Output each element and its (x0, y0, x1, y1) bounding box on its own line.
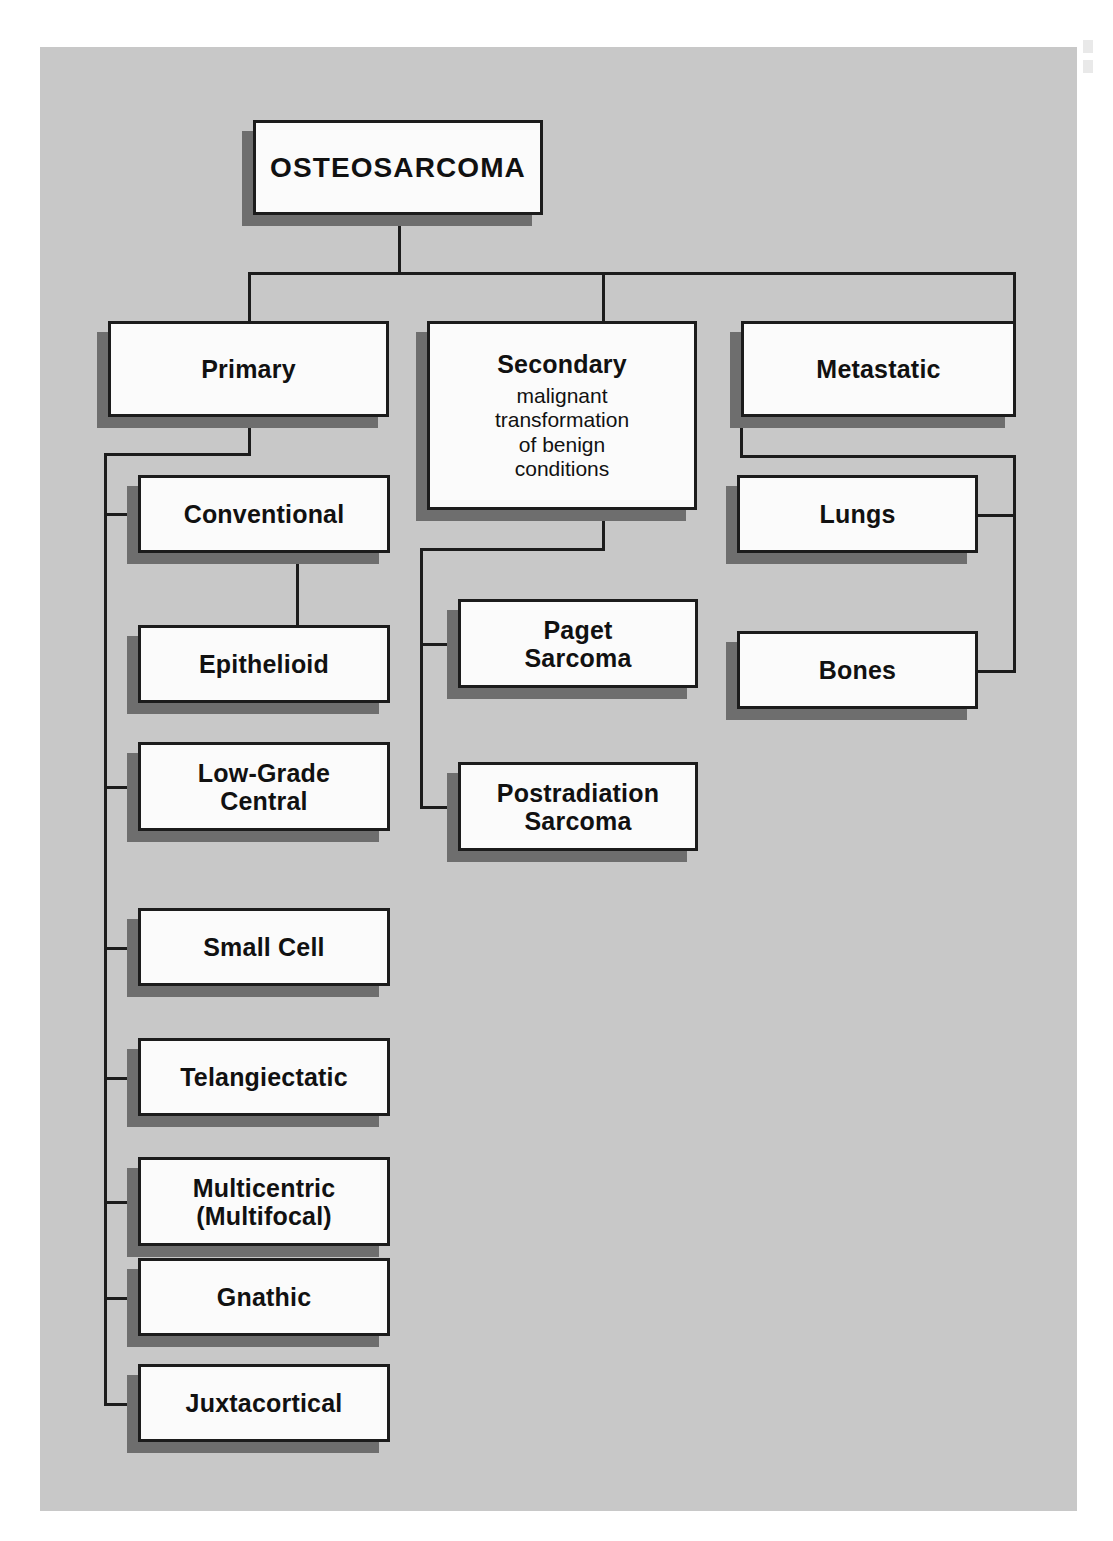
connector-drop-primary (248, 272, 251, 322)
node-secondary[interactable]: Secondary malignant transformation of be… (427, 321, 697, 510)
node-label: Secondary (497, 350, 627, 378)
node-label: Primary (201, 355, 296, 383)
box-face: Small Cell (138, 908, 390, 986)
connector-root-bar (248, 272, 1016, 275)
box-face: Conventional (138, 475, 390, 553)
connector-stub-lungs (977, 514, 1016, 517)
node-lungs[interactable]: Lungs (737, 475, 978, 553)
node-label: Juxtacortical (186, 1389, 343, 1417)
node-low-grade-central[interactable]: Low-Grade Central (138, 742, 390, 831)
node-sublabel-line1: malignant (495, 384, 629, 408)
node-label-line2: Central (198, 787, 330, 815)
node-bones[interactable]: Bones (737, 631, 978, 709)
node-label-line2: (Multifocal) (193, 1202, 336, 1230)
connector-secondary-trunk (420, 548, 423, 809)
node-label-line1: Paget (524, 616, 631, 644)
node-label-line1: Low-Grade (198, 759, 330, 787)
node-telangiectatic[interactable]: Telangiectatic (138, 1038, 390, 1116)
connector-stub-bones (977, 670, 1016, 673)
node-primary[interactable]: Primary (108, 321, 389, 417)
node-label: Epithelioid (199, 650, 329, 678)
node-sublabel-line4: conditions (495, 457, 629, 481)
connector-primary-trunk (104, 453, 107, 1406)
node-multicentric-multifocal[interactable]: Multicentric (Multifocal) (138, 1157, 390, 1246)
box-face: Postradiation Sarcoma (458, 762, 698, 851)
box-face: Bones (737, 631, 978, 709)
connector-secondary-elbow (420, 548, 605, 551)
connector-metastatic-elbow (740, 455, 1016, 458)
connector-metastatic-trunk (1013, 455, 1016, 673)
node-label: Postradiation Sarcoma (497, 779, 659, 835)
connector-primary-elbow (104, 453, 251, 456)
box-face: Multicentric (Multifocal) (138, 1157, 390, 1246)
chart-page: OSTEOSARCOMA Primary Secondary malignant… (0, 0, 1113, 1541)
node-label-line1: Postradiation (497, 779, 659, 807)
node-postradiation-sarcoma[interactable]: Postradiation Sarcoma (458, 762, 698, 851)
node-label-line2: Sarcoma (497, 807, 659, 835)
node-gnathic[interactable]: Gnathic (138, 1258, 390, 1336)
diagram-panel: OSTEOSARCOMA Primary Secondary malignant… (40, 47, 1077, 1511)
node-metastatic[interactable]: Metastatic (741, 321, 1016, 417)
node-small-cell[interactable]: Small Cell (138, 908, 390, 986)
box-face: Paget Sarcoma (458, 599, 698, 688)
connector-drop-metastatic (1013, 272, 1016, 322)
node-juxtacortical[interactable]: Juxtacortical (138, 1364, 390, 1442)
connector-drop-secondary (602, 272, 605, 322)
connector-conventional-epithelioid (296, 554, 299, 626)
node-label: Multicentric (Multifocal) (193, 1174, 336, 1230)
box-face: Juxtacortical (138, 1364, 390, 1442)
box-face: Lungs (737, 475, 978, 553)
node-label: Paget Sarcoma (524, 616, 631, 672)
node-label-line1: Multicentric (193, 1174, 336, 1202)
box-face: OSTEOSARCOMA (253, 120, 543, 215)
node-label: Bones (819, 656, 896, 684)
node-sublabel-line3: of benign (495, 433, 629, 457)
node-label: Small Cell (203, 933, 325, 961)
node-conventional[interactable]: Conventional (138, 475, 390, 553)
box-face: Gnathic (138, 1258, 390, 1336)
box-face: Epithelioid (138, 625, 390, 703)
box-face: Metastatic (741, 321, 1016, 417)
node-label-line2: Sarcoma (524, 644, 631, 672)
scan-artifact-mark-1 (1083, 40, 1093, 53)
box-face: Secondary malignant transformation of be… (427, 321, 697, 510)
box-face: Primary (108, 321, 389, 417)
node-osteosarcoma[interactable]: OSTEOSARCOMA (253, 120, 543, 215)
node-label: Low-Grade Central (198, 759, 330, 815)
node-label: Metastatic (816, 355, 940, 383)
node-sublabel-line2: transformation (495, 408, 629, 432)
node-label: Telangiectatic (180, 1063, 348, 1091)
node-label: OSTEOSARCOMA (270, 152, 526, 183)
node-label: Conventional (184, 500, 345, 528)
node-sublabel: malignant transformation of benign condi… (495, 384, 629, 481)
scan-artifact-mark-2 (1083, 60, 1093, 73)
node-epithelioid[interactable]: Epithelioid (138, 625, 390, 703)
node-label: Lungs (820, 500, 896, 528)
box-face: Low-Grade Central (138, 742, 390, 831)
node-label: Gnathic (217, 1283, 311, 1311)
box-face: Telangiectatic (138, 1038, 390, 1116)
node-paget-sarcoma[interactable]: Paget Sarcoma (458, 599, 698, 688)
